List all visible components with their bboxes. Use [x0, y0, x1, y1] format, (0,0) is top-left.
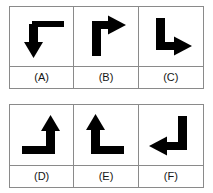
option-cell-e[interactable]: (E) [74, 105, 138, 187]
answer-options-figure: (A) (B) [0, 0, 213, 193]
option-label-d: (D) [10, 166, 73, 187]
elbow-arrow-up-from-right-icon [80, 110, 132, 160]
arrow-glyph-b-container [74, 7, 137, 67]
arrow-glyph-e-container [74, 105, 137, 166]
options-table-row-2: (D) (E) [9, 104, 204, 188]
option-cell-b[interactable]: (B) [74, 7, 138, 88]
option-label-e: (E) [74, 166, 137, 187]
arrow-glyph-d-container [10, 105, 73, 166]
elbow-arrow-right-up-icon [80, 12, 132, 62]
arrow-glyph-f-container [139, 105, 203, 166]
option-cell-c[interactable]: (C) [139, 7, 203, 88]
option-cell-d[interactable]: (D) [10, 105, 74, 187]
option-cell-f[interactable]: (F) [139, 105, 203, 187]
cell-group-row-1: (A) (B) [10, 7, 203, 88]
option-label-c: (C) [139, 67, 203, 88]
elbow-arrow-down-icon [16, 12, 68, 62]
elbow-arrow-up-from-left-icon [16, 110, 68, 160]
option-cell-a[interactable]: (A) [10, 7, 74, 88]
elbow-arrow-left-from-top-icon [145, 110, 197, 160]
option-label-f: (F) [139, 166, 203, 187]
arrow-glyph-a-container [10, 7, 73, 67]
option-label-a: (A) [10, 67, 73, 88]
arrow-glyph-c-container [139, 7, 203, 67]
cell-group-row-2: (D) (E) [10, 105, 203, 187]
elbow-arrow-right-down-icon [145, 12, 197, 62]
option-label-b: (B) [74, 67, 137, 88]
options-table-row-1: (A) (B) [9, 6, 204, 89]
